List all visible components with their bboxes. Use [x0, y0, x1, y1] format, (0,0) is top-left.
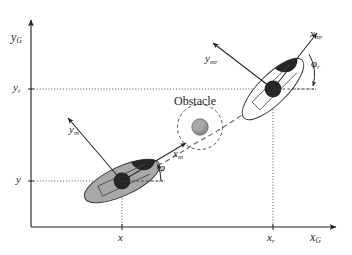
robot-reference-group	[213, 33, 317, 128]
obstacle-body	[192, 119, 208, 135]
x-tick-label-current: x	[118, 232, 123, 243]
robot-reference-local-x-label: xmr	[310, 28, 322, 39]
robot-reference-heading-angle-label: φr	[311, 58, 320, 69]
robot-reference-local-y-label: ymr	[205, 53, 217, 64]
y-tick-label-r: yr	[13, 82, 21, 93]
obstacle-label: Obstacle	[174, 95, 216, 107]
robot-current-heading-angle-label: φ	[159, 162, 165, 173]
figure-canvas: yG xG yr y x xr ym xm φ ymr xmr φr Obsta…	[0, 0, 352, 255]
x-tick-label-r: xr	[267, 232, 275, 243]
robot-current-local-x-label: xm	[173, 148, 183, 159]
y-tick-label-current: y	[16, 174, 21, 185]
x-axis-label: xG	[310, 231, 321, 243]
robot-current-group	[68, 118, 186, 211]
robot-reference-local-y-axis	[213, 43, 273, 89]
obstacle-group	[178, 105, 223, 150]
y-axis-label: yG	[11, 31, 22, 43]
robot-current-local-y-label: ym	[69, 124, 79, 135]
diagram-svg	[0, 0, 352, 255]
